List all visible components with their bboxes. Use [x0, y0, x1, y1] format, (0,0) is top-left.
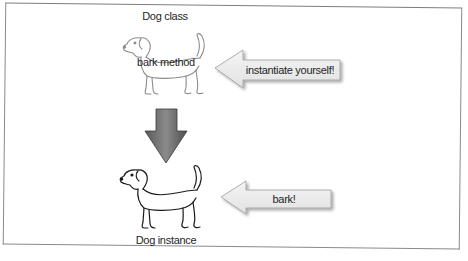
dog-instance-icon	[120, 166, 201, 228]
bark-arrow-label: bark!	[273, 193, 296, 205]
instantiate-arrow-label: instantiate yourself!	[246, 64, 334, 76]
bark-method-label: bark method	[137, 56, 195, 68]
diagram-canvas	[0, 0, 468, 261]
dog-instance-label: Dog instance	[136, 234, 197, 246]
down-arrow	[145, 109, 187, 163]
dog-class-label: Dog class	[142, 10, 188, 22]
